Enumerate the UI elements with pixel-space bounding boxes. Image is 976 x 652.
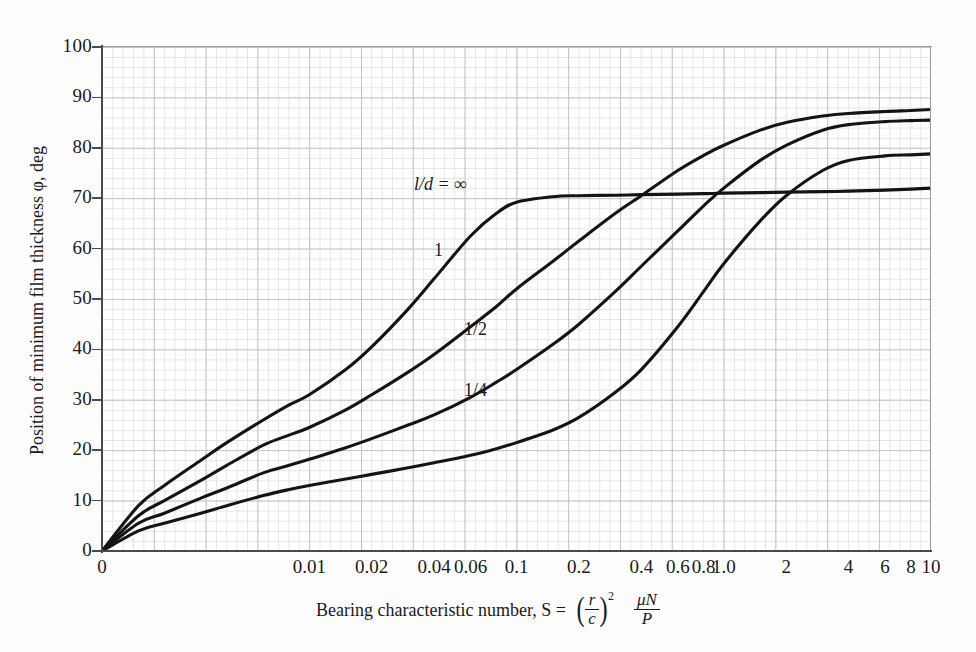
paren-close-icon: ) [599,592,607,626]
exponent-two: 2 [608,589,614,603]
fraction-muN-over-P: μNP [634,591,660,628]
y-tick-label-text: 40 [46,338,92,357]
x-tick-label: 10 [922,556,941,578]
x-tick-label: 2 [781,556,791,578]
y-tick-mark [92,399,102,401]
y-tick-label-text: 80 [46,137,92,156]
plot-frame-right [930,46,931,552]
x-tick-label: 0 [97,556,107,578]
curve-label-l-over-d-infinity: l/d = ∞ [414,174,467,195]
y-tick-label-text: 30 [46,389,92,408]
y-tick-label-text: 0 [46,540,92,559]
y-tick-label-text: 100 [46,36,92,55]
paren-open-icon: ( [576,592,584,626]
y-tick-mark [92,500,102,502]
y-tick-mark [92,449,102,451]
x-tick-label: 1.0 [712,556,736,578]
curve-l-over-d-1 [102,110,931,552]
curve-label-l-over-d-1: 1 [434,240,443,261]
curve-l-over-d-1-2 [102,120,931,551]
x-tick-label: 0.4 [629,556,653,578]
y-tick-label-text: 20 [46,439,92,458]
x-axis-line [101,550,932,552]
y-tick-mark [92,197,102,199]
x-tick-label: 0.04 [417,556,450,578]
y-tick-label-text: 10 [46,490,92,509]
y-tick-label: 100 [26,36,92,55]
x-tick-label: 4 [844,556,854,578]
plot-frame-top [101,46,932,47]
x-tick-label: 0.01 [293,556,326,578]
x-tick-label: 6 [880,556,890,578]
y-axis-title: Position of minimum film thickness φ, de… [27,81,48,521]
y-tick-label-text: 50 [46,288,92,307]
y-tick-label-text: 70 [46,187,92,206]
x-tick-label: 0.6 [666,556,690,578]
curve-label-l-over-d-1-2: 1/2 [464,319,487,340]
y-tick-mark [92,298,102,300]
y-tick-label-text: 60 [46,238,92,257]
y-tick-mark [92,550,102,552]
curve-label-l-over-d-1-4: 1/4 [464,380,487,401]
y-tick-label: 0 [26,540,92,559]
x-tick-label: 0.06 [454,556,487,578]
curve-l-over-d-1-4 [102,154,931,551]
x-tick-label: 0.02 [355,556,388,578]
plot-area: l/d = ∞ 1 1/2 1/4 [102,47,931,551]
x-axis-title: Bearing characteristic number, S =(rc)2μ… [0,592,976,629]
x-tick-label: 0.1 [505,556,529,578]
x-tick-label: 8 [906,556,916,578]
y-tick-label-text: 90 [46,86,92,105]
y-tick-mark [92,248,102,250]
x-axis-title-text: Bearing characteristic number, S = [316,600,566,621]
x-tick-label: 0.2 [567,556,591,578]
y-tick-mark [92,349,102,351]
figure-chart-position-of-minimum-film-thickness: l/d = ∞ 1 1/2 1/4 0102030405060708090100… [0,0,976,652]
curves-layer [102,47,931,551]
y-tick-mark [92,97,102,99]
fraction-r-over-c: rc [585,591,599,628]
y-tick-mark [92,147,102,149]
y-tick-mark [92,46,102,48]
